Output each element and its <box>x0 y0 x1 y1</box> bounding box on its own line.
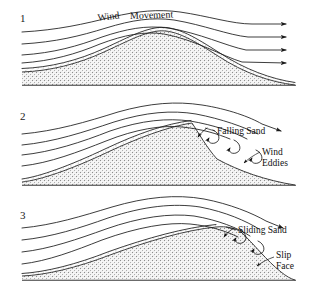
panel-3-label-sliding-sand: Sliding Sand <box>238 225 287 235</box>
panel-2-label-falling-sand: Falling Sand <box>217 126 266 136</box>
panel-2-label-wind: Wind <box>262 147 283 157</box>
panel-3-number: 3 <box>20 209 26 221</box>
dune-formation-figure: 1 Wind Movement 2 Falling Sand Wind Eddi… <box>0 0 312 299</box>
panel-2-number: 2 <box>20 110 26 122</box>
panel-3-label-slip: Slip <box>276 250 292 260</box>
panel-1-number: 1 <box>20 12 26 24</box>
panel-1: 1 Wind Movement <box>20 8 296 85</box>
panel-3-streamline-1 <box>22 197 283 228</box>
panel-1-label-wind: Wind <box>97 9 120 23</box>
panel-2-eddy-curl-2 <box>229 140 240 153</box>
panel-3: 3 Sliding Sand Slip Face <box>20 197 296 281</box>
panel-3-label-face: Face <box>276 261 294 271</box>
panel-2-eddy-curl-3 <box>251 150 262 163</box>
panel-2-leader-falling-sand <box>205 128 215 131</box>
panel-2: 2 Falling Sand Wind Eddies <box>20 103 296 185</box>
panel-2-label-eddies: Eddies <box>262 158 288 168</box>
panel-1-label-movement: Movement <box>130 8 174 21</box>
